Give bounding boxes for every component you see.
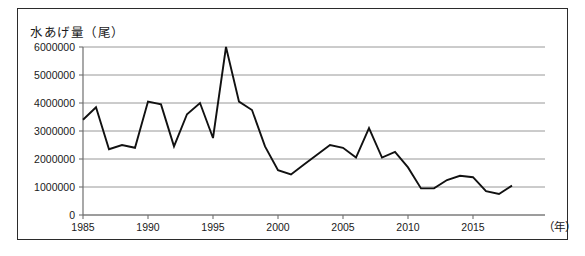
y-axis-title: 水あげ量（尾） [30,22,125,41]
figure-border [17,8,568,240]
chart-figure: 水あげ量（尾） 01000000200000030000004000000500… [0,0,585,256]
